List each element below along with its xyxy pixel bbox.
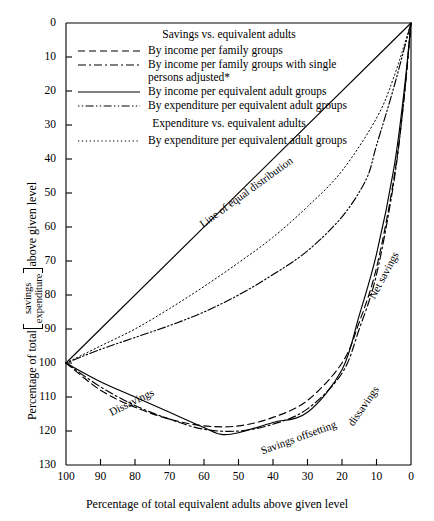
y-tick-label: 30 bbox=[28, 119, 56, 130]
legend-heading-savings: Savings vs. equivalent adults bbox=[78, 28, 358, 41]
x-tick-label: 90 bbox=[88, 471, 114, 482]
legend-entry[interactable]: By income per equivalent adult groups bbox=[78, 85, 358, 98]
x-tick-label: 50 bbox=[226, 471, 252, 482]
legend-group-expenditure: By expenditure per equivalent adult grou… bbox=[78, 134, 358, 147]
legend-entry-label: By income per equivalent adult groups bbox=[148, 85, 358, 98]
fraction-denominator: expenditure bbox=[33, 274, 44, 324]
chart-legend: Savings vs. equivalent adults By income … bbox=[78, 28, 358, 148]
x-tick-label: 100 bbox=[53, 471, 79, 482]
legend-line-sample-dashdotdot bbox=[78, 99, 142, 112]
chart-root: 0102030405060708090100110120130 10090807… bbox=[0, 0, 434, 521]
legend-entry-label: By expenditure per equivalent adult grou… bbox=[148, 134, 358, 147]
legend-heading-expenditure: Expenditure vs. equivalent adults bbox=[78, 117, 358, 130]
y-axis-title: Percentage of totalsavingsexpenditureabo… bbox=[22, 176, 44, 426]
x-tick-label: 20 bbox=[329, 471, 355, 482]
legend-line-sample-dotted bbox=[78, 134, 142, 147]
y-axis-title-fraction: savingsexpenditure bbox=[22, 268, 44, 330]
legend-entry-label: By income per family groups bbox=[148, 44, 358, 57]
x-tick-label: 10 bbox=[364, 471, 390, 482]
x-tick-marks bbox=[101, 459, 377, 465]
legend-entry[interactable]: By income per family groups with single … bbox=[78, 58, 358, 84]
bracket-right-icon bbox=[23, 268, 43, 273]
y-tick-label: 20 bbox=[28, 85, 56, 96]
x-axis-title: Percentage of total equivalent adults ab… bbox=[0, 497, 434, 512]
y-tick-marks bbox=[66, 57, 72, 431]
legend-entry[interactable]: By expenditure per equivalent adult grou… bbox=[78, 99, 358, 112]
legend-entry[interactable]: By expenditure per equivalent adult grou… bbox=[78, 134, 358, 147]
legend-line-sample-dashdot bbox=[78, 58, 142, 71]
y-tick-label: 10 bbox=[28, 51, 56, 62]
x-tick-label: 40 bbox=[260, 471, 286, 482]
legend-group-savings: By income per family groupsBy income per… bbox=[78, 44, 358, 112]
legend-line-sample-solid bbox=[78, 85, 142, 98]
y-axis-title-prefix: Percentage of total bbox=[25, 330, 39, 420]
bracket-left-icon bbox=[23, 324, 43, 329]
y-tick-label: 130 bbox=[28, 459, 56, 470]
legend-entry-label: By expenditure per equivalent adult grou… bbox=[148, 99, 358, 112]
legend-entry-label: By income per family groups with single … bbox=[148, 58, 358, 84]
y-tick-label: 120 bbox=[28, 425, 56, 436]
y-tick-label: 40 bbox=[28, 153, 56, 164]
x-tick-label: 0 bbox=[398, 471, 424, 482]
x-tick-label: 80 bbox=[122, 471, 148, 482]
legend-line-sample-dashed bbox=[78, 44, 142, 57]
y-tick-label: 0 bbox=[28, 17, 56, 28]
fraction-numerator: savings bbox=[22, 274, 33, 324]
y-axis-title-suffix: above given level bbox=[25, 182, 39, 267]
legend-entry[interactable]: By income per family groups bbox=[78, 44, 358, 57]
x-tick-label: 30 bbox=[295, 471, 321, 482]
x-tick-label: 70 bbox=[157, 471, 183, 482]
x-tick-label: 60 bbox=[191, 471, 217, 482]
